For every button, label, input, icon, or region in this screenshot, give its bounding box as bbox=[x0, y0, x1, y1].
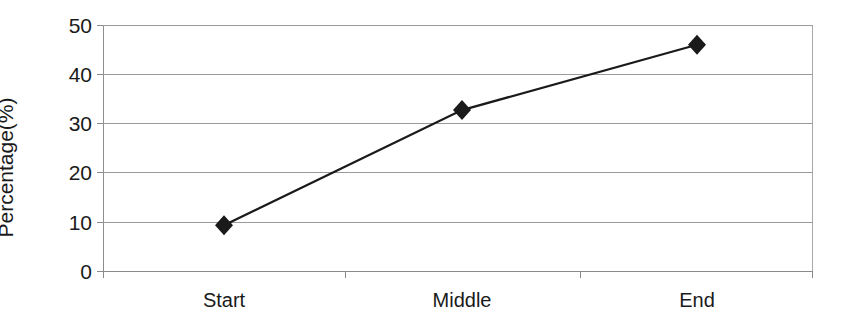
y-tick-label-20: 20 bbox=[46, 162, 92, 183]
x-tick-mark-start bbox=[103, 271, 104, 278]
line-chart: Percentage(%) 50 40 30 20 10 0 Start bbox=[0, 0, 853, 335]
y-tick-label-30: 30 bbox=[46, 113, 92, 134]
x-tick-mark-1 bbox=[345, 271, 346, 278]
x-axis-label-start: Start bbox=[203, 290, 245, 310]
x-axis-label-middle: Middle bbox=[433, 290, 492, 310]
y-axis-line bbox=[103, 25, 104, 271]
plot-right-border bbox=[812, 25, 813, 271]
gridline-10 bbox=[103, 222, 813, 223]
gridline-40 bbox=[103, 74, 813, 75]
y-axis-tick-labels: 50 40 30 20 10 0 bbox=[46, 0, 92, 335]
y-axis-title: Percentage(%) bbox=[0, 0, 50, 335]
gridline-20 bbox=[103, 172, 813, 173]
y-tick-label-0: 0 bbox=[46, 261, 92, 282]
gridline-30 bbox=[103, 123, 813, 124]
x-tick-mark-end bbox=[812, 271, 813, 278]
y-tick-label-10: 10 bbox=[46, 212, 92, 233]
y-tick-label-40: 40 bbox=[46, 64, 92, 85]
gridline-50 bbox=[103, 25, 813, 26]
x-axis-label-end: End bbox=[679, 290, 715, 310]
plot-area bbox=[103, 25, 813, 271]
x-tick-mark-2 bbox=[580, 271, 581, 278]
y-tick-label-50: 50 bbox=[46, 15, 92, 36]
x-axis-line bbox=[103, 271, 813, 272]
